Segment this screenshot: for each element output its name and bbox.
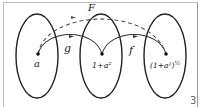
set-ellipse-middle <box>80 14 122 98</box>
arrow-F-icon <box>71 16 76 19</box>
point-sqrt <box>164 52 168 56</box>
map-label-F: F <box>87 2 96 13</box>
point-label-a: a <box>34 58 40 69</box>
point-a <box>36 52 40 56</box>
map-label-f: f <box>128 44 135 57</box>
point-label-codomain: (1+a²)½ <box>150 59 180 70</box>
point-1-plus-a-squared <box>100 52 104 56</box>
map-label-g: g <box>64 42 71 55</box>
point-label-codomain-base: (1+a²) <box>150 61 174 70</box>
arrow-g-icon <box>69 35 74 38</box>
set-ellipse-domain <box>16 14 58 98</box>
figure-number: 3 <box>190 95 196 106</box>
composition-diagram: a 1+a² (1+a²)½ g f F 3 <box>0 0 203 107</box>
set-ellipse-codomain <box>144 14 186 98</box>
arrow-f-icon <box>133 35 138 38</box>
point-label-middle: 1+a² <box>92 61 112 70</box>
point-label-codomain-exp: ½ <box>174 59 180 66</box>
